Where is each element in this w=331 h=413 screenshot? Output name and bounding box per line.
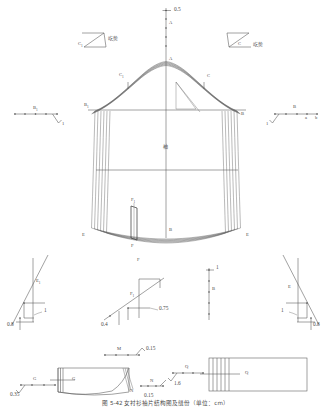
sleeve-hem-center-label: B — [169, 228, 172, 233]
pattern-drawing-sheet: .ln { stroke:#555; stroke-width:.55; fil… — [0, 0, 331, 413]
sleeve-biceps-right-label: B — [241, 112, 244, 117]
q-scale-dim: 1.6 — [174, 381, 181, 386]
center-detail-dim-b: 0.75 — [159, 306, 168, 311]
n-scale-main-label: N — [150, 379, 153, 384]
cap-left-sub: 1 — [122, 75, 124, 79]
g-scale-main-label: G — [33, 377, 36, 382]
sleeve-cap-right-label: C — [207, 74, 210, 79]
left-detail-point-label: E1 — [36, 279, 41, 285]
center-detail-top-label: F — [137, 258, 140, 263]
top-tick-scale — [163, 8, 172, 55]
center-scale-value-label: 1 — [216, 265, 219, 270]
center-scale-point-label: B — [212, 287, 215, 292]
ease-right-text: 吃势 — [253, 42, 263, 47]
right-detail-point-label: E — [288, 285, 291, 290]
center-detail-dim-a: 0.4 — [101, 322, 108, 327]
cuff-edge-label: N — [130, 389, 133, 394]
sleeve-biceps-left-label: B1 — [84, 103, 89, 109]
right-underarm-detail-graphic — [283, 255, 319, 330]
ease-left-sub: 1 — [81, 44, 83, 48]
m-scale-dim: 0.15 — [146, 346, 155, 351]
center-detail-sub: 1 — [133, 294, 135, 298]
left-detail-dim-a: 0.8 — [7, 322, 14, 327]
top-scale-value-label: 0.5 — [174, 7, 181, 12]
left-scale-hook-label: 1 — [62, 122, 64, 127]
cuff-inner-label: G — [72, 377, 75, 382]
m-scale-main-label: M — [117, 347, 121, 352]
sleeve-apex-label: A — [169, 57, 172, 62]
ease-right-point-label: C — [238, 42, 241, 47]
pattern-vector-canvas: .ln { stroke:#555; stroke-width:.55; fil… — [0, 0, 331, 413]
left-dot-scale-graphic — [14, 113, 62, 123]
placket-label: Q — [245, 371, 248, 376]
sleeve-hem-bottom-label: F — [131, 244, 134, 249]
sleeve-hem-right-label: E — [246, 233, 249, 238]
ease-left-text: 吃势 — [108, 36, 118, 41]
top-scale-point-label: A — [169, 21, 172, 26]
sleeve-hem-left-label: E — [82, 233, 85, 238]
center-dart-detail-graphic — [104, 278, 164, 325]
right-scale-minor-a: a — [305, 116, 307, 121]
left-detail-dim-b: 1 — [44, 308, 47, 313]
cuff-piece-graphic — [50, 368, 133, 395]
right-scale-hook-label: 1 — [266, 122, 268, 127]
sleeve-cap-left-label: C1 — [119, 73, 124, 79]
right-dot-scale-graphic — [270, 113, 319, 123]
n-scale-dim: 0.15 — [144, 393, 153, 398]
placket-piece-graphic — [200, 358, 307, 391]
right-scale-minor-b: b — [315, 116, 317, 121]
ease-left-point-label: C1 — [78, 42, 83, 48]
center-detail-point-label: F1 — [130, 292, 134, 298]
sleeve-main-body — [88, 55, 246, 243]
right-detail-dim-a: 1 — [281, 308, 284, 313]
left-detail-sub: 1 — [39, 281, 41, 285]
center-vertical-scale-graphic — [206, 268, 214, 320]
dart-sub: 1 — [134, 200, 136, 204]
right-scale-main-label: B — [293, 105, 296, 110]
g-scale-dim: 0.35 — [10, 392, 19, 397]
g-dot-scale-graphic — [16, 384, 56, 393]
q-scale-main-label: Q — [185, 365, 188, 370]
m-dot-scale-graphic — [104, 348, 145, 356]
right-detail-dim-b: 0.8 — [313, 322, 320, 327]
ease-symbol-left — [82, 33, 106, 47]
sleeve-center-label: 袖 — [163, 144, 168, 149]
figure-caption: 图 5-42 女衬衫袖片结构图及缝份（单位：cm） — [0, 399, 331, 407]
left-underarm-detail-graphic — [12, 255, 48, 330]
left-scale-sub: 1 — [36, 108, 38, 112]
biceps-left-sub: 1 — [87, 105, 89, 109]
sleeve-dart-label: F1 — [131, 198, 135, 204]
left-scale-main-label: B1 — [33, 106, 38, 112]
